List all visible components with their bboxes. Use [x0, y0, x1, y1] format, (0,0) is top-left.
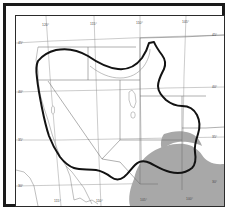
tick-left-40: 40° — [18, 90, 24, 94]
state-border-ks-ok — [182, 127, 224, 128]
great-salt-lake — [129, 90, 136, 108]
coastline-group — [16, 47, 98, 206]
tick-left-45: 45° — [18, 41, 24, 45]
shaded-distribution-area — [129, 131, 224, 206]
lake-tahoe — [51, 106, 54, 114]
coastline-pacific — [36, 47, 74, 200]
tick-bottom-105: 105° — [140, 198, 148, 202]
coastline-pacific-far-west — [16, 170, 38, 206]
tick-right-35: 35° — [212, 135, 218, 139]
map-neatline: 45° 40° 35° 30° 45° 40° 35° 30° 120° 115… — [15, 15, 225, 207]
tick-bottom-100: 100° — [186, 197, 194, 201]
tick-bottom-115: 115° — [54, 199, 61, 203]
coastline-gulf-california — [74, 198, 98, 204]
tick-left-35: 35° — [18, 138, 24, 142]
tick-bottom-110: 110° — [96, 199, 103, 203]
tick-top-110: 110° — [136, 21, 143, 25]
utah-lake — [131, 112, 135, 118]
graticule-lon-115 — [94, 16, 101, 206]
tick-top-115: 115° — [90, 22, 97, 26]
state-border-nv-az — [102, 140, 120, 159]
tick-right-30: 30° — [212, 180, 218, 184]
map-outer-frame: 45° 40° 35° 30° 45° 40° 35° 30° 120° 115… — [3, 3, 225, 207]
tick-right-40: 40° — [212, 85, 218, 89]
tick-top-105: 105° — [182, 20, 190, 24]
tick-top-120: 120° — [42, 23, 50, 27]
tick-right-45: 45° — [212, 33, 218, 37]
tick-left-30: 30° — [18, 184, 24, 188]
map-figure: 45° 40° 35° 30° 45° 40° 35° 30° 120° 115… — [0, 0, 228, 210]
map-canvas: 45° 40° 35° 30° 45° 40° 35° 30° 120° 115… — [16, 16, 224, 206]
shaded-region-main — [129, 144, 224, 206]
